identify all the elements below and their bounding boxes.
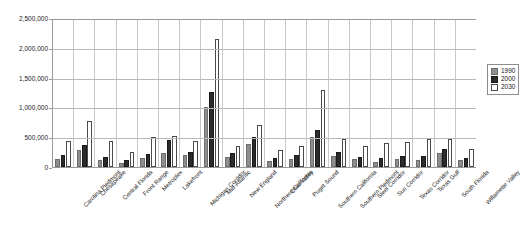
bar-1990 bbox=[416, 160, 421, 167]
bar-1990 bbox=[77, 150, 82, 167]
bar-2030 bbox=[342, 139, 347, 167]
bar-1990 bbox=[140, 158, 145, 167]
bar-2030 bbox=[448, 139, 453, 167]
x-axis-label: Willamette Valley bbox=[484, 169, 520, 205]
bar-group bbox=[201, 19, 222, 167]
bar-group bbox=[244, 19, 265, 167]
bar-1990 bbox=[161, 153, 166, 167]
bar-2030 bbox=[87, 121, 92, 167]
bar-1990 bbox=[289, 159, 294, 167]
bar-group bbox=[159, 19, 180, 167]
x-axis-label: Lakefront bbox=[181, 169, 203, 191]
y-axis-tick-label: 1,000,000 bbox=[0, 105, 52, 112]
legend-swatch-icon bbox=[491, 84, 498, 91]
bar-2000 bbox=[188, 152, 193, 167]
legend-label: 2030 bbox=[501, 84, 515, 91]
bar-2000 bbox=[124, 160, 129, 167]
bar-2000 bbox=[61, 155, 66, 167]
legend-label: 2000 bbox=[501, 76, 515, 83]
bar-2000 bbox=[379, 158, 384, 167]
bar-1990 bbox=[352, 159, 357, 167]
x-axis-label: Southern Piedmont bbox=[359, 169, 400, 210]
bar-2000 bbox=[421, 156, 426, 167]
bar-1990 bbox=[246, 144, 251, 167]
bar-2030 bbox=[257, 125, 262, 167]
bar-group bbox=[371, 19, 392, 167]
bar-2030 bbox=[66, 141, 71, 167]
bar-2000 bbox=[209, 92, 214, 167]
bar-2030 bbox=[363, 146, 368, 167]
bar-2000 bbox=[294, 155, 299, 167]
bar-1990 bbox=[119, 163, 124, 167]
gridline bbox=[53, 108, 476, 109]
bar-2000 bbox=[315, 130, 320, 167]
bar-group bbox=[117, 19, 138, 167]
bar-2000 bbox=[146, 154, 151, 167]
bar-group bbox=[53, 19, 74, 167]
bar-group bbox=[413, 19, 434, 167]
bar-2030 bbox=[405, 142, 410, 167]
bar-1990 bbox=[458, 160, 463, 167]
bar-group bbox=[350, 19, 371, 167]
bar-group bbox=[223, 19, 244, 167]
bar-2030 bbox=[151, 137, 156, 167]
bar-group bbox=[265, 19, 286, 167]
bar-group bbox=[329, 19, 350, 167]
bar-2000 bbox=[400, 156, 405, 167]
bar-2030 bbox=[278, 150, 283, 167]
bar-2000 bbox=[358, 157, 363, 167]
bar-2030 bbox=[384, 143, 389, 167]
bar-2030 bbox=[215, 39, 220, 167]
gridline bbox=[53, 79, 476, 80]
y-axis-tick-label: 2,000,000 bbox=[0, 46, 52, 53]
bar-2000 bbox=[230, 153, 235, 167]
bar-2030 bbox=[236, 146, 241, 167]
x-axis-label: Southern California bbox=[337, 169, 378, 210]
bar-2030 bbox=[469, 149, 474, 167]
y-axis-tick-label: 0 bbox=[0, 165, 52, 172]
bar-2000 bbox=[167, 140, 172, 167]
bar-1990 bbox=[373, 162, 378, 167]
bar-1990 bbox=[55, 159, 60, 167]
bar-1990 bbox=[98, 160, 103, 167]
legend-item[interactable]: 2000 bbox=[491, 76, 515, 83]
y-axis-tick-label: 2,500,000 bbox=[0, 16, 52, 23]
legend-item[interactable]: 2030 bbox=[491, 84, 515, 91]
x-axis-label: Puget Sound bbox=[311, 169, 340, 198]
bar-chart: 0500,0001,000,0001,500,0002,000,0002,500… bbox=[0, 0, 529, 235]
bar-group bbox=[74, 19, 95, 167]
bar-2000 bbox=[252, 137, 257, 167]
bar-1990 bbox=[395, 159, 400, 167]
bar-groups bbox=[53, 19, 476, 167]
x-axis-label: New England bbox=[248, 169, 277, 198]
plot-area bbox=[52, 19, 476, 168]
bar-1990 bbox=[310, 137, 315, 167]
bar-2000 bbox=[103, 157, 108, 167]
bar-group bbox=[307, 19, 328, 167]
bar-1990 bbox=[267, 161, 272, 167]
bar-2030 bbox=[193, 141, 198, 167]
bar-group bbox=[286, 19, 307, 167]
y-axis: 0500,0001,000,0001,500,0002,000,0002,500… bbox=[0, 19, 52, 168]
bar-2030 bbox=[172, 136, 177, 167]
x-axis-labels: Carolina PiedmontChesapeakeCentral Flori… bbox=[52, 169, 476, 235]
legend-label: 1990 bbox=[501, 68, 515, 75]
x-axis-label: South Florida bbox=[460, 169, 489, 198]
bar-2000 bbox=[442, 149, 447, 167]
legend-item[interactable]: 1990 bbox=[491, 68, 515, 75]
x-axis-label: Ohio Valley bbox=[289, 169, 315, 195]
bar-group bbox=[435, 19, 456, 167]
y-axis-tick-label: 500,000 bbox=[0, 135, 52, 142]
bar-2000 bbox=[464, 158, 469, 167]
bar-2030 bbox=[130, 152, 135, 167]
bar-2030 bbox=[321, 90, 326, 167]
bar-2030 bbox=[109, 141, 114, 167]
bar-2000 bbox=[273, 158, 278, 167]
bar-group bbox=[392, 19, 413, 167]
legend-swatch-icon bbox=[491, 76, 498, 83]
gridline bbox=[53, 138, 476, 139]
bar-group bbox=[456, 19, 476, 167]
bar-group bbox=[138, 19, 159, 167]
bar-2000 bbox=[336, 152, 341, 167]
bar-1990 bbox=[225, 157, 230, 167]
